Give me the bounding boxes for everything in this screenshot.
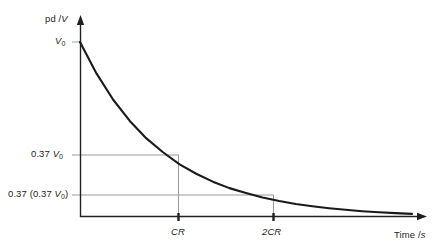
y-axis-arrowhead (77, 15, 84, 25)
y-tick-label-037v0: 0.37 V0 (31, 149, 63, 160)
x-tick-label-cr: CR (171, 227, 185, 237)
y-axis-label: pd /V (45, 14, 68, 24)
x-axis-label: Time /s (394, 230, 426, 240)
capacitor-discharge-figure: pd /V V0 0.37 V0 0.37 (0.37 V0) CR 2CR T… (0, 0, 445, 249)
figure-canvas (0, 0, 445, 249)
x-tick-label-2cr: 2CR (262, 227, 281, 237)
x-axis-arrowhead (417, 213, 427, 220)
discharge-curve (80, 42, 412, 214)
y-tick-label-037-037v0: 0.37 (0.37 V0) (8, 189, 68, 200)
y-tick-label-v0: V0 (55, 36, 65, 47)
